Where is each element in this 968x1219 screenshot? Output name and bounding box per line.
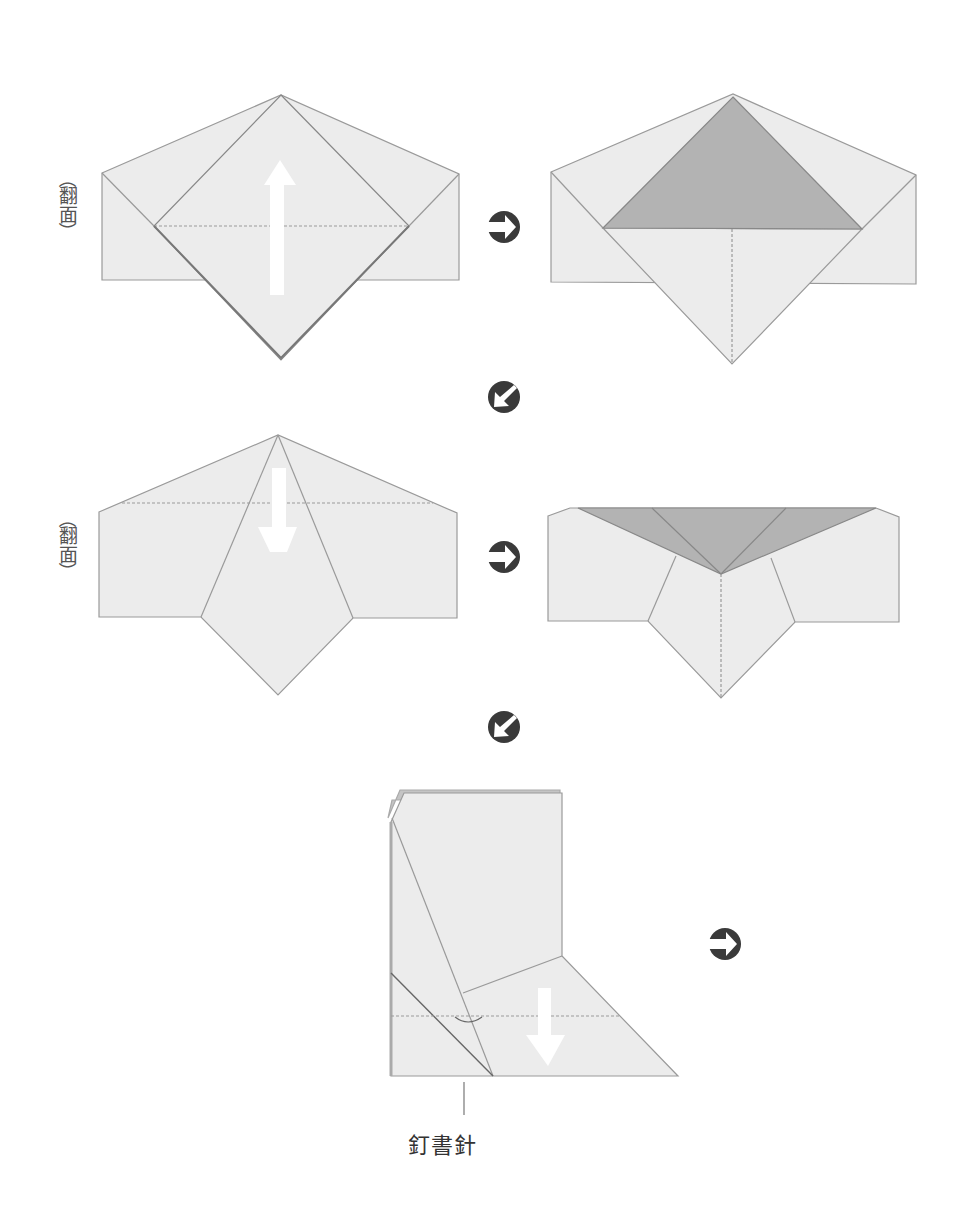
diagram-canvas [0,0,968,1219]
arrow-right-circle-icon [488,211,520,243]
arrow-down-left-circle-icon [488,711,520,743]
arrow-down-left-circle-icon [488,381,520,413]
origami-instruction-diagram: （ 翻面 ） （ 翻面 ） [0,0,968,1219]
step-3-diagram [99,435,457,695]
step-5-diagram [388,790,678,1115]
arrow-right-circle-icon [488,541,520,573]
staple-label: 釘書針 [408,1127,477,1159]
step-2-diagram [551,94,916,364]
step-4-diagram [548,508,899,698]
arrow-right-circle-icon [709,928,741,960]
step-1-diagram [102,95,459,360]
